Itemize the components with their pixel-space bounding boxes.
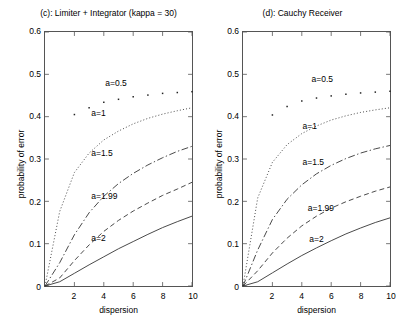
series-line xyxy=(45,146,192,286)
panel-c-title: (c): Limiter + Integrator (kappa = 30) xyxy=(0,8,211,18)
y-tick-label: 0.5 xyxy=(29,69,41,79)
data-marker xyxy=(147,94,148,95)
series-line xyxy=(45,216,192,286)
data-marker xyxy=(103,102,104,103)
x-tick-label: 2 xyxy=(71,291,76,301)
series-label: a=2 xyxy=(91,233,105,243)
y-tick-label: 0.3 xyxy=(227,154,239,164)
series-label: a=1 xyxy=(303,121,317,131)
panel-c-x-axis-title: dispersion xyxy=(44,305,193,315)
y-tick-label: 0.6 xyxy=(29,26,41,36)
data-marker xyxy=(345,93,346,94)
y-tick-label: 0.2 xyxy=(29,197,41,207)
data-marker xyxy=(88,107,89,108)
y-tick-label: 0 xyxy=(36,282,41,292)
series-line xyxy=(45,108,192,286)
x-tick-label: 2 xyxy=(269,291,274,301)
y-tick-label: 0.4 xyxy=(29,111,41,121)
y-tick-label: 0.1 xyxy=(29,239,41,249)
chart-panel-c: (c): Limiter + Integrator (kappa = 30) 0… xyxy=(0,0,205,329)
series-label: a=1 xyxy=(91,108,105,118)
chart-panel-d: (d): Cauchy Receiver 00.10.20.30.40.50.6… xyxy=(198,0,403,329)
panel-d-x-axis-ticks: 246810 xyxy=(242,291,391,305)
x-tick-label: 4 xyxy=(299,291,304,301)
series-label: a=0.5 xyxy=(312,74,334,84)
panel-d-title: (d): Cauchy Receiver xyxy=(198,8,403,18)
x-tick-label: 4 xyxy=(101,291,106,301)
data-marker xyxy=(132,96,133,97)
series-line xyxy=(243,108,390,286)
series-label: a=1.99 xyxy=(91,191,117,201)
data-marker xyxy=(191,91,192,92)
x-tick-label: 10 xyxy=(386,291,395,301)
y-tick-label: 0.4 xyxy=(227,111,239,121)
y-tick-label: 0.2 xyxy=(227,197,239,207)
x-tick-label: 6 xyxy=(131,291,136,301)
data-marker xyxy=(286,106,287,107)
x-tick-label: 6 xyxy=(329,291,334,301)
panel-c-y-axis-title: probability of error xyxy=(16,94,26,234)
data-marker xyxy=(162,93,163,94)
x-tick-label: 8 xyxy=(161,291,166,301)
data-marker xyxy=(316,97,317,98)
data-marker xyxy=(360,92,361,93)
y-tick-label: 0 xyxy=(234,282,239,292)
series-label: a=2 xyxy=(309,234,323,244)
series-label: a=1.5 xyxy=(91,148,113,158)
series-label: a=0.5 xyxy=(105,78,127,88)
panel-c-series-layer xyxy=(45,32,192,286)
panel-c-plot-area: a=0.5a=1a=1.5a=1.99a=2 xyxy=(44,31,193,287)
y-tick-label: 0.6 xyxy=(227,26,239,36)
data-marker xyxy=(375,91,376,92)
y-tick-label: 0.1 xyxy=(227,239,239,249)
x-tick-label: 8 xyxy=(359,291,364,301)
panel-d-y-axis-title: probability of error xyxy=(214,94,224,234)
y-tick-label: 0.5 xyxy=(227,69,239,79)
x-tick-label: 10 xyxy=(188,291,197,301)
data-marker xyxy=(330,95,331,96)
data-marker xyxy=(301,100,302,101)
series-line xyxy=(45,182,192,286)
series-label: a=1.99 xyxy=(308,203,334,213)
data-marker xyxy=(389,91,390,92)
data-marker xyxy=(177,92,178,93)
figure-container: (c): Limiter + Integrator (kappa = 30) 0… xyxy=(0,0,403,329)
panel-d-plot-area: a=0.5a=1a=1.5a=1.99a=2 xyxy=(242,31,391,287)
series-line xyxy=(243,218,390,286)
data-marker xyxy=(118,99,119,100)
panel-d-x-axis-title: dispersion xyxy=(242,305,391,315)
panel-c-x-axis-ticks: 246810 xyxy=(44,291,193,305)
series-label: a=1.5 xyxy=(303,157,325,167)
data-marker xyxy=(74,114,75,115)
y-tick-label: 0.3 xyxy=(29,154,41,164)
data-marker xyxy=(272,114,273,115)
